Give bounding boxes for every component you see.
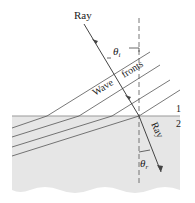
incident-ray-label: Ray (74, 9, 92, 21)
medium-1-label: 1 (176, 103, 181, 114)
theta-i-label: θi (113, 45, 120, 59)
refraction-diagram: Ray θi Wave fronts 1 2 Ray θr (0, 0, 195, 203)
fronts-label: fronts (119, 58, 145, 80)
incident-ray-arrow-icon-2 (125, 95, 131, 100)
theta-i-marker (107, 48, 139, 58)
medium-2-label: 2 (176, 118, 181, 129)
wave-label: Wave (90, 76, 115, 98)
